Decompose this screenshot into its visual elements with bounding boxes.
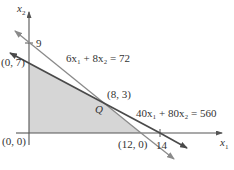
vertex-label-0-0: (0, 0) [2,135,26,148]
constraint-label-40x-80y-560: 40x₁ + 80x₂ = 560 [136,107,217,119]
lp-diagram: x2 x1 9 14 (0, 7) (8, 3) (0, 0) (12, 0) … [0,0,234,170]
vertex-label-8-3: (8, 3) [107,88,131,101]
x-tick-label-14: 14 [156,139,168,151]
vertex-label-0-7: (0, 7) [1,56,25,69]
region-label-q: Q [95,103,103,115]
vertex-label-12-0: (12, 0) [118,138,148,151]
x-axis-label: x1 [219,136,229,151]
y-axis-label: x2 [16,2,26,17]
constraint-label-6x-8y-72: 6x₁ + 8x₂ = 72 [66,52,130,64]
y-tick-label-9: 9 [36,37,42,49]
